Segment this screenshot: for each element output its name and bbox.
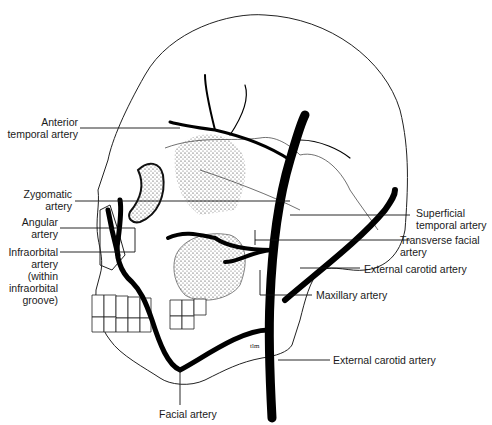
orbit xyxy=(129,164,163,223)
label-line: Facial artery xyxy=(159,408,217,420)
label-line: External carotid artery xyxy=(333,354,436,366)
label-superficial-temporal-artery: Superficial temporal artery xyxy=(416,207,487,231)
label-line: artery xyxy=(0,228,58,240)
label-line: Transverse facial xyxy=(400,234,480,246)
label-external-carotid-artery-upper: External carotid artery xyxy=(364,263,467,275)
label-line: Superficial xyxy=(416,207,487,219)
temporal-stipple xyxy=(175,134,246,215)
label-line: artery xyxy=(10,200,72,212)
label-line: artery xyxy=(400,246,480,258)
label-line: groove) xyxy=(0,294,58,306)
label-angular-artery: Angular artery xyxy=(0,216,58,240)
label-line: artery xyxy=(0,258,58,270)
external-carotid-trunk xyxy=(269,115,305,418)
label-line: Infraorbital xyxy=(0,246,58,258)
label-infraorbital-artery: Infraorbital artery (within infraorbital… xyxy=(0,246,58,306)
label-maxillary-artery: Maxillary artery xyxy=(316,289,387,301)
label-anterior-temporal-artery: Anterior temporal artery xyxy=(20,116,78,140)
label-line: Maxillary artery xyxy=(316,289,387,301)
label-line: Anterior xyxy=(20,116,78,128)
label-line: temporal artery xyxy=(416,219,487,231)
artist-signature: tlm xyxy=(250,342,260,350)
label-line: temporal artery xyxy=(0,128,78,140)
label-line: (within xyxy=(0,270,58,282)
label-transverse-facial-artery: Transverse facial artery xyxy=(400,234,480,258)
maxillary-stipple xyxy=(174,234,245,300)
label-facial-artery: Facial artery xyxy=(159,408,217,420)
label-line: Zygomatic xyxy=(10,188,72,200)
label-line: Angular xyxy=(0,216,58,228)
label-external-carotid-artery-lower: External carotid artery xyxy=(333,354,436,366)
arteries xyxy=(108,75,395,418)
label-zygomatic-artery: Zygomatic artery xyxy=(10,188,72,212)
label-line: External carotid artery xyxy=(364,263,467,275)
label-line: infraorbital xyxy=(0,282,58,294)
